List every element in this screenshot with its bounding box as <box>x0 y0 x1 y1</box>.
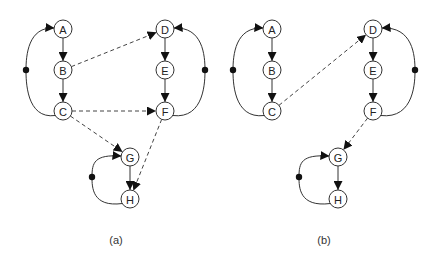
loop-edge-C-A <box>26 28 55 116</box>
node-label: G <box>126 152 135 164</box>
node-label: B <box>268 65 275 77</box>
loop-edge-H-G <box>92 156 122 204</box>
node-label: A <box>268 24 276 36</box>
node-label: H <box>126 194 134 206</box>
dashed-edge-F-G <box>343 118 367 150</box>
node-G: G <box>121 148 139 166</box>
edges-layer <box>23 28 418 204</box>
node-label: E <box>369 65 376 77</box>
panel-b-caption: (b) <box>317 234 330 246</box>
loop-edge-F-D <box>173 28 205 116</box>
dashed-edge-B-D <box>71 32 156 66</box>
node-A: A <box>54 20 72 38</box>
node-label: A <box>59 24 67 36</box>
loop-dot-icon <box>296 174 302 180</box>
node-B: B <box>263 61 281 79</box>
loop-dot-icon <box>202 67 208 73</box>
node-F: F <box>364 102 382 120</box>
node-C: C <box>263 102 281 120</box>
loop-edge-H-G <box>299 156 330 204</box>
dashed-edge-C-D <box>279 35 366 106</box>
node-C: C <box>54 102 72 120</box>
node-F: F <box>156 102 174 120</box>
node-G: G <box>329 148 347 166</box>
captions-layer: (a) (b) <box>109 234 330 246</box>
dashed-edge-C-G <box>70 116 122 152</box>
node-A: A <box>263 20 281 38</box>
node-label: E <box>161 65 168 77</box>
loop-dot-icon <box>89 174 95 180</box>
loop-edge-F-D <box>381 28 415 116</box>
node-H: H <box>329 190 347 208</box>
node-label: C <box>268 106 276 118</box>
node-D: D <box>156 20 174 38</box>
node-label: G <box>334 152 343 164</box>
graph-diagram: ABCDEFGHABCDEFGH (a) (b) <box>0 0 437 269</box>
node-label: H <box>334 194 342 206</box>
node-label: C <box>59 106 67 118</box>
node-H: H <box>121 190 139 208</box>
node-B: B <box>54 61 72 79</box>
node-label: D <box>161 24 169 36</box>
loop-dot-icon <box>23 67 29 73</box>
node-label: D <box>369 24 377 36</box>
node-label: F <box>370 106 377 118</box>
node-E: E <box>156 61 174 79</box>
node-label: B <box>59 65 66 77</box>
loop-dot-icon <box>412 67 418 73</box>
loop-dot-icon <box>230 67 236 73</box>
node-E: E <box>364 61 382 79</box>
nodes-layer: ABCDEFGHABCDEFGH <box>54 20 382 208</box>
panel-a-caption: (a) <box>109 234 122 246</box>
node-label: F <box>162 106 169 118</box>
node-D: D <box>364 20 382 38</box>
loop-edge-C-A <box>233 28 264 116</box>
